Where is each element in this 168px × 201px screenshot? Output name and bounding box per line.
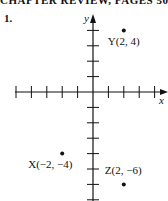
point-label-y: Y(2, 4) <box>108 35 140 48</box>
coordinate-plane: x y Y(2, 4)X(−2, −4)Z(2, −6) <box>0 0 168 201</box>
y-axis-label: y <box>83 12 89 24</box>
point-x <box>60 152 64 156</box>
x-axis-label: x <box>158 94 164 106</box>
point-y <box>122 28 126 32</box>
point-label-x: X(−2, −4) <box>28 158 73 171</box>
point-z <box>122 182 126 186</box>
point-label-z: Z(2, −6) <box>105 164 142 177</box>
plotted-points: Y(2, 4)X(−2, −4)Z(2, −6) <box>28 28 142 186</box>
y-axis-arrow-icon <box>90 14 96 23</box>
